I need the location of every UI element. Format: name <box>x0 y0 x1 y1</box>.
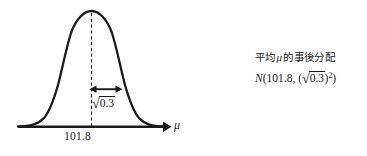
standard-deviation-label: √0.3 <box>92 96 115 111</box>
normal-curve-path <box>18 11 164 127</box>
formula-mean-value: 101.8 <box>267 72 293 84</box>
formula-radical-sqrt-0-3: √0.3 <box>302 71 325 86</box>
x-axis-tick-label: 101.8 <box>64 131 91 143</box>
sd-arrow-head-right <box>116 86 123 93</box>
formula-outer-close-paren: ) <box>332 72 336 84</box>
caption-line-posterior-of-mean: 平均μ的事後分配 <box>255 52 367 63</box>
caption-suffix-text: 的事後分配 <box>283 51 335 63</box>
x-axis-arrowhead <box>163 122 172 132</box>
caption-block: 平均μ的事後分配 N(101.8, (√0.3)2) <box>255 52 367 86</box>
figure-canvas: 101.8 μ √0.3 平均μ的事後分配 N(101.8, (√0.3)2) <box>0 0 367 156</box>
normal-distribution-symbol: N <box>255 72 263 84</box>
radical-sqrt-0-3: √0.3 <box>92 96 115 111</box>
radicand: 0.3 <box>99 96 114 111</box>
x-axis-variable-label: μ <box>174 119 180 131</box>
formula-separator: , ( <box>292 72 302 84</box>
caption-line-distribution-formula: N(101.8, (√0.3)2) <box>255 71 367 86</box>
formula-radicand: 0.3 <box>309 71 324 86</box>
caption-prefix-text: 平均 <box>255 51 276 63</box>
sd-arrow-head-left <box>90 86 97 93</box>
